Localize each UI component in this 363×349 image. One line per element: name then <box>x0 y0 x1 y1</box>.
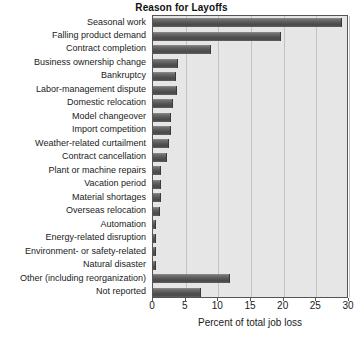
bar-row <box>153 178 347 191</box>
category-label: Vacation period <box>0 178 146 188</box>
category-label: Energy-related disruption <box>0 232 146 242</box>
category-label: Domestic relocation <box>0 97 146 107</box>
x-tick-label: 30 <box>342 300 353 312</box>
category-label: Material shortages <box>0 192 146 202</box>
category-label: Bankruptcy <box>0 70 146 80</box>
x-tick-label: 25 <box>310 300 321 312</box>
bar <box>153 59 178 68</box>
x-tick-label: 15 <box>244 300 255 312</box>
bar <box>153 32 281 41</box>
x-tick-label: 10 <box>212 300 223 312</box>
bar <box>153 72 176 81</box>
x-tick-label: 5 <box>182 300 188 312</box>
bar <box>153 180 161 189</box>
bar-row <box>153 286 347 299</box>
category-label: Other (including reorganization) <box>0 273 146 283</box>
bar-row <box>153 245 347 258</box>
bar-row <box>153 56 347 69</box>
gridline <box>349 16 350 297</box>
x-tick-mark <box>348 298 349 301</box>
x-tick-mark <box>315 298 316 301</box>
bar <box>153 99 173 108</box>
bar <box>153 153 167 162</box>
bar <box>153 234 156 243</box>
bar-row <box>153 110 347 123</box>
value-axis-tick-labels: 051015202530 <box>0 300 363 314</box>
bar-row <box>153 259 347 272</box>
category-label: Not reported <box>0 286 146 296</box>
bar <box>153 220 156 229</box>
x-tick-label: 20 <box>277 300 288 312</box>
category-label: Business ownership change <box>0 57 146 67</box>
category-label: Contract cancellation <box>0 151 146 161</box>
bar <box>153 126 171 135</box>
bar <box>153 86 177 95</box>
bar-row <box>153 29 347 42</box>
bar-row <box>153 232 347 245</box>
category-label: Weather-related curtailment <box>0 138 146 148</box>
category-label: Seasonal work <box>0 17 146 27</box>
bar-row <box>153 191 347 204</box>
bar-row <box>153 70 347 83</box>
x-tick-mark <box>217 298 218 301</box>
bar-row <box>153 124 347 137</box>
bar <box>153 193 161 202</box>
bar <box>153 18 342 27</box>
category-label: Overseas relocation <box>0 205 146 215</box>
bar-row <box>153 137 347 150</box>
x-axis-title: Percent of total job loss <box>152 316 348 329</box>
bar-row <box>153 205 347 218</box>
bar <box>153 113 171 122</box>
x-tick-mark <box>185 298 186 301</box>
category-label: Falling product demand <box>0 30 146 40</box>
bar-row <box>153 43 347 56</box>
category-label: Model changeover <box>0 111 146 121</box>
x-tick-label: 0 <box>149 300 155 312</box>
bar <box>153 288 201 297</box>
category-label: Labor-management dispute <box>0 84 146 94</box>
plot-area <box>152 15 348 298</box>
bar <box>153 139 169 148</box>
bar-row <box>153 16 347 29</box>
chart-figure: Reason for Layoffs Seasonal workFalling … <box>0 0 363 349</box>
bar-row <box>153 151 347 164</box>
bar-row <box>153 97 347 110</box>
bar <box>153 274 230 283</box>
category-axis-labels: Seasonal workFalling product demandContr… <box>0 15 149 298</box>
bar <box>153 166 161 175</box>
bar <box>153 45 211 54</box>
category-label: Plant or machine repairs <box>0 165 146 175</box>
bar <box>153 247 156 256</box>
category-label: Contract completion <box>0 43 146 53</box>
category-label: Environment- or safety-related <box>0 246 146 256</box>
bar-row <box>153 272 347 285</box>
bar-row <box>153 218 347 231</box>
category-label: Natural disaster <box>0 259 146 269</box>
x-tick-mark <box>283 298 284 301</box>
bar <box>153 261 156 270</box>
bar <box>153 207 160 216</box>
x-tick-mark <box>250 298 251 301</box>
category-label: Automation <box>0 219 146 229</box>
bars-container <box>153 16 347 297</box>
category-label: Import competition <box>0 124 146 134</box>
x-tick-mark <box>152 298 153 301</box>
bar-row <box>153 83 347 96</box>
bar-row <box>153 164 347 177</box>
chart-title: Reason for Layoffs <box>0 1 363 14</box>
